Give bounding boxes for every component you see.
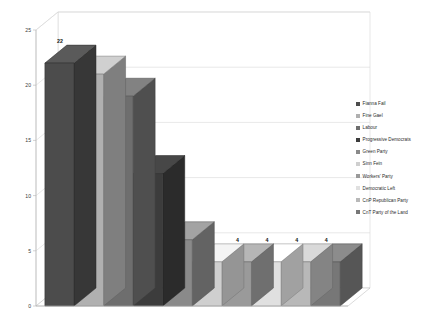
y-axis-tick-label: 0: [28, 303, 31, 309]
legend-item-label: Democratic Left: [363, 183, 395, 195]
legend-item-label: Workers' Party: [363, 171, 393, 183]
bar-side-face: [74, 45, 96, 306]
legend-item: Workers' Party: [356, 171, 438, 183]
legend-item-label: Progressive Democrats: [363, 134, 411, 146]
legend-swatch-icon: [356, 138, 360, 142]
bar-side-face: [163, 156, 185, 306]
y-axis-tick-label: 20: [25, 82, 31, 88]
legend-swatch-icon: [356, 126, 360, 130]
legend-swatch-icon: [356, 186, 360, 190]
legend-item-label: CnT Party of the Land: [363, 207, 408, 219]
legend-item-label: Labour: [363, 122, 377, 134]
legend-item-label: Sinn Fein: [363, 158, 383, 170]
legend-item: CnT Party of the Land: [356, 207, 438, 219]
legend-item-label: Green Party: [363, 146, 388, 158]
legend-item-label: CnP Republican Party: [363, 195, 409, 207]
bar-value-label: 22: [57, 38, 63, 44]
chart-legend: Fianna FailFine GaelLabourProgressive De…: [356, 98, 438, 219]
bar-value-label: 4: [236, 237, 239, 243]
legend-item: Democratic Left: [356, 183, 438, 195]
legend-item: Progressive Democrats: [356, 134, 438, 146]
legend-swatch-icon: [356, 150, 360, 154]
legend-item: Green Party: [356, 146, 438, 158]
y-axis-tick-label: 25: [25, 27, 31, 33]
legend-swatch-icon: [356, 210, 360, 214]
bar-side-face: [104, 56, 126, 306]
legend-item: Fianna Fail: [356, 98, 438, 110]
legend-swatch-icon: [356, 162, 360, 166]
legend-swatch-icon: [356, 174, 360, 178]
y-axis-tick-label: 10: [25, 193, 31, 199]
legend-item: Labour: [356, 122, 438, 134]
y-axis-tick-label: 15: [25, 137, 31, 143]
bar-front-face: [45, 63, 74, 306]
legend-item: Sinn Fein: [356, 158, 438, 170]
bar-group: 22: [45, 38, 96, 306]
legend-swatch-icon: [356, 102, 360, 106]
legend-item-label: Fianna Fail: [363, 98, 386, 110]
bar-value-label: 4: [325, 237, 328, 243]
bar-side-face: [133, 78, 155, 306]
legend-swatch-icon: [356, 114, 360, 118]
legend-item: Fine Gael: [356, 110, 438, 122]
legend-item: CnP Republican Party: [356, 195, 438, 207]
y-axis-tick-label: 5: [28, 248, 31, 254]
bar-value-label: 4: [266, 237, 269, 243]
bar-value-label: 4: [295, 237, 298, 243]
bar-chart: 051015202544444612192122 Fianna FailFine…: [0, 0, 438, 326]
legend-item-label: Fine Gael: [363, 110, 383, 122]
legend-swatch-icon: [356, 198, 360, 202]
